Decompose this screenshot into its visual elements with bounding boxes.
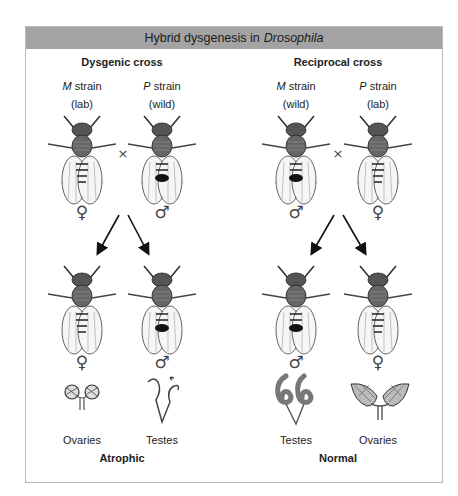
organ-label: Ovaries [63, 434, 101, 446]
atrophic-testes-illustration [146, 376, 182, 426]
outcome-normal: Normal [319, 452, 357, 464]
male-fly-illustration [124, 264, 200, 356]
organ-label: Testes [280, 434, 312, 446]
female-fly-illustration [340, 264, 416, 356]
female-symbol: ♀ [372, 352, 384, 372]
male-symbol: ♂ [288, 352, 303, 372]
organ-label: Testes [146, 434, 178, 446]
male-symbol: ♂ [154, 352, 169, 372]
female-symbol: ♀ [76, 352, 88, 372]
normal-testes-illustration [274, 372, 318, 428]
male-fly-illustration [258, 264, 334, 356]
normal-ovaries-illustration [349, 382, 411, 422]
female-fly-illustration [44, 264, 120, 356]
organ-label: Ovaries [359, 434, 397, 446]
outcome-atrophic: Atrophic [99, 452, 144, 464]
atrophic-ovaries-illustration [62, 382, 102, 412]
